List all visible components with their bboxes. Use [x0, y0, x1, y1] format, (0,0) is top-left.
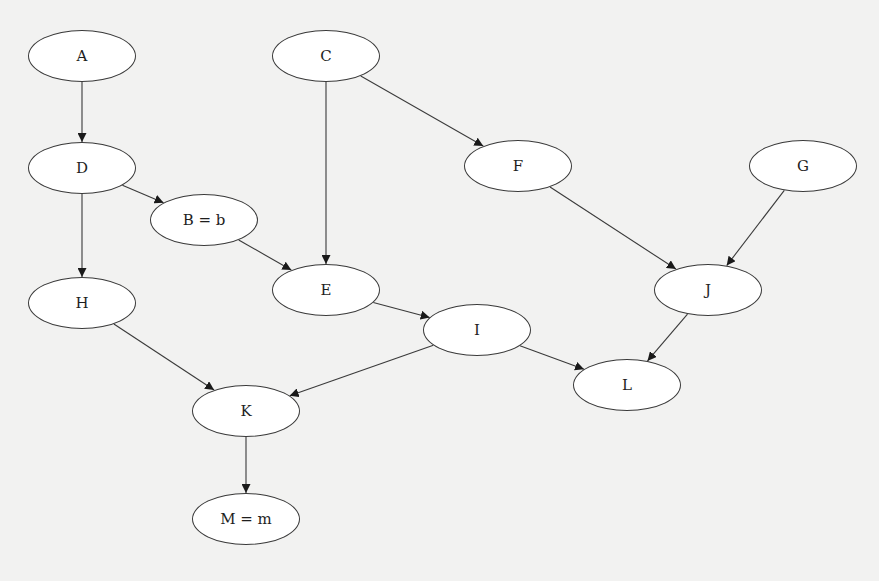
edge-j-to-l [648, 314, 688, 361]
edge-c-to-f [361, 76, 484, 146]
edge-f-to-j [550, 187, 676, 269]
edge-h-to-k [114, 324, 214, 390]
edge-i-to-l [520, 346, 584, 369]
node-m: M = m [192, 493, 300, 545]
node-label: H [75, 294, 88, 312]
node-j: J [654, 264, 762, 316]
edge-g-to-j [727, 190, 785, 265]
node-label: B = b [183, 211, 226, 229]
node-label: C [320, 47, 331, 65]
graph-canvas: ACDB = bFGEHJILKM = m [0, 0, 879, 581]
edge-d-to-b [122, 185, 163, 203]
node-label: K [240, 402, 251, 420]
node-f: F [464, 140, 572, 192]
node-label: G [797, 157, 809, 175]
node-label: D [76, 159, 88, 177]
edge-e-to-i [373, 303, 429, 318]
node-label: I [474, 321, 480, 339]
node-a: A [28, 30, 136, 82]
node-label: F [513, 157, 523, 175]
node-g: G [749, 140, 857, 192]
node-e: E [272, 264, 380, 316]
edge-b-to-e [239, 240, 292, 270]
node-l: L [573, 359, 681, 411]
node-label: J [705, 281, 711, 299]
node-label: M = m [220, 510, 272, 528]
edge-i-to-k [290, 345, 434, 395]
node-c: C [272, 30, 380, 82]
node-b: B = b [150, 194, 258, 246]
node-k: K [192, 385, 300, 437]
node-label: A [77, 47, 88, 65]
node-label: L [622, 376, 632, 394]
node-label: E [321, 281, 332, 299]
node-i: I [423, 304, 531, 356]
node-h: H [28, 277, 136, 329]
node-d: D [28, 142, 136, 194]
